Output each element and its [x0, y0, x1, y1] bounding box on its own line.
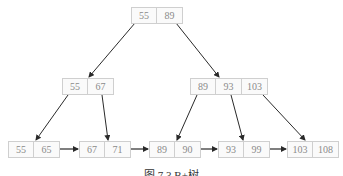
- leaf-key: 99: [244, 141, 270, 158]
- leaf-key: 108: [313, 141, 339, 158]
- internal-key: 67: [88, 78, 114, 95]
- leaf-node-4: 93 99: [218, 141, 270, 158]
- leaf-key: 89: [149, 141, 175, 158]
- internal-node-left: 55 67: [62, 78, 114, 95]
- leaf-key: 103: [287, 141, 313, 158]
- leaf-node-2: 67 71: [79, 141, 131, 158]
- figure-caption: 图 7.3 B+树: [0, 166, 343, 176]
- internal-node-right: 89 93 103: [190, 78, 268, 95]
- edge-root-to-internal-right: [176, 23, 219, 77]
- internal-key: 103: [242, 78, 268, 95]
- leaf-key: 67: [79, 141, 105, 158]
- leaf-key: 71: [105, 141, 131, 158]
- internal-key: 55: [62, 78, 88, 95]
- root-key: 55: [131, 7, 157, 24]
- edge-internal-right-to-leaf-3: [177, 95, 197, 140]
- root-key: 89: [157, 7, 183, 24]
- leaf-key: 55: [8, 141, 34, 158]
- leaf-key: 90: [175, 141, 201, 158]
- bplus-tree-diagram: 55 89 55 67 89 93 103 55 65 67 71 89 90 …: [0, 0, 343, 176]
- edge-internal-right-to-leaf-4: [231, 95, 243, 140]
- edge-root-to-internal-left: [89, 23, 135, 77]
- leaf-node-5: 103 108: [287, 141, 339, 158]
- edge-internal-right-to-leaf-5: [263, 95, 305, 140]
- root-node: 55 89: [131, 7, 183, 24]
- edge-internal-left-to-leaf-2: [102, 95, 108, 140]
- internal-key: 93: [216, 78, 242, 95]
- leaf-node-3: 89 90: [149, 141, 201, 158]
- internal-key: 89: [190, 78, 216, 95]
- leaf-node-1: 55 65: [8, 141, 60, 158]
- leaf-key: 93: [218, 141, 244, 158]
- leaf-key: 65: [34, 141, 60, 158]
- edge-internal-left-to-leaf-1: [36, 95, 68, 140]
